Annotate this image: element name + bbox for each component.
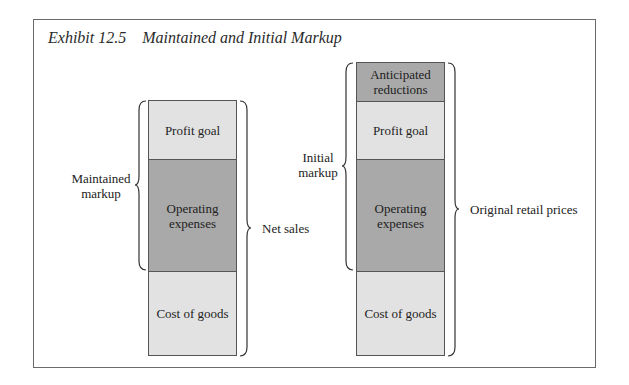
left-brace-initial-markup [341, 62, 355, 271]
label-initial-markup: Initial markup [296, 150, 340, 180]
segment-label: Operating expenses [158, 201, 228, 231]
label-original-retail-prices: Original retail prices [470, 202, 578, 217]
left-segment-operating-expenses: Operating expenses [149, 159, 236, 271]
right-segment-cost-of-goods: Cost of goods [357, 271, 444, 355]
right-brace-net-sales [238, 100, 252, 357]
left-stack-bar: Profit goal Operating expenses Cost of g… [148, 100, 237, 356]
right-segment-operating-expenses: Operating expenses [357, 159, 444, 271]
segment-label: Anticipated reductions [361, 67, 441, 97]
segment-label: Profit goal [373, 123, 428, 138]
left-brace-maintained-markup [134, 100, 148, 271]
right-brace-original-retail-prices [446, 62, 460, 357]
left-segment-profit-goal: Profit goal [149, 101, 236, 159]
segment-label: Cost of goods [364, 306, 436, 321]
right-stack-bar: Anticipated reductions Profit goal Opera… [356, 62, 445, 356]
right-segment-profit-goal: Profit goal [357, 101, 444, 159]
label-maintained-markup: Maintained markup [70, 171, 132, 201]
exhibit-title: Exhibit 12.5 Maintained and Initial Mark… [48, 29, 342, 47]
segment-label: Profit goal [165, 123, 220, 138]
segment-label: Operating expenses [366, 201, 436, 231]
right-segment-anticipated-reductions: Anticipated reductions [357, 63, 444, 101]
left-segment-cost-of-goods: Cost of goods [149, 271, 236, 355]
label-net-sales: Net sales [262, 221, 309, 236]
segment-label: Cost of goods [156, 306, 228, 321]
